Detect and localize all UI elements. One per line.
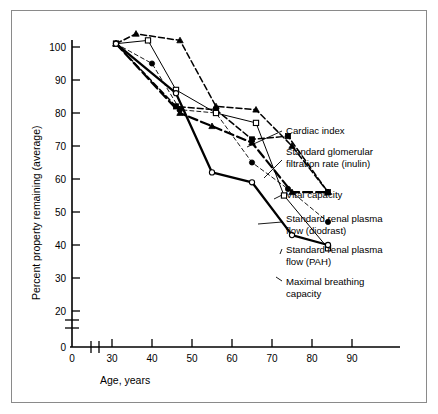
annotation-maximal-breathing-line2: capacity — [286, 288, 321, 299]
data-point-open-circle — [209, 170, 214, 175]
figure-container: 100 90 80 70 60 50 40 30 20 0 0 30 40 50… — [0, 0, 438, 414]
y-axis-title: Percent property remaining (average) — [30, 125, 42, 300]
y-tick-label-20: 20 — [55, 306, 67, 317]
y-tick-label-100: 100 — [49, 42, 66, 53]
x-tick-label-70: 70 — [266, 353, 278, 364]
x-tick-label-30: 30 — [106, 353, 118, 364]
y-tick-label-30: 30 — [55, 273, 67, 284]
data-point-open-square — [145, 38, 150, 43]
x-axis-title: Age, years — [100, 374, 150, 386]
x-axis-ticks — [112, 339, 352, 347]
annotation-cardiac-index: Cardiac index — [286, 125, 345, 136]
y-tick-label-60: 60 — [55, 174, 67, 185]
annotation-leaders — [247, 131, 282, 281]
series-1 — [113, 31, 331, 195]
annotation-srpf-diodrast-line2: flow (diodrast) — [286, 225, 346, 236]
y-tick-label-70: 70 — [55, 141, 67, 152]
annotation-sgfr-inulin-line2: filtration rate (inulin) — [286, 158, 370, 169]
series-3 — [113, 41, 331, 195]
annotation-maximal-breathing-line1: Maximal breathing — [286, 276, 364, 287]
annotation-srpf-pah-line1: Standard renal plasma — [286, 244, 383, 255]
leader-srpf-diodrast — [258, 222, 282, 224]
y-tick-label-50: 50 — [55, 207, 67, 218]
series-2 — [113, 41, 330, 195]
y-tick-label-80: 80 — [55, 108, 67, 119]
x-tick-label-80: 80 — [306, 353, 318, 364]
x-tick-label-50: 50 — [186, 353, 198, 364]
y-tick-label-0: 0 — [60, 342, 66, 353]
annotation-srpf-diodrast-line1: Standard renal plasma — [286, 213, 383, 224]
data-point-open-circle — [113, 41, 118, 46]
leader-maximal-breathing — [276, 277, 282, 281]
leader-vital-capacity — [274, 195, 282, 199]
data-point-open-square — [253, 120, 258, 125]
leader-srpf-pah — [280, 249, 282, 254]
annotation-vital-capacity: Vital capacity — [286, 189, 343, 200]
annotation-srpf-pah-line2: flow (PAH) — [286, 256, 331, 267]
data-point-open-circle — [173, 91, 178, 96]
data-point-filled-circle — [149, 61, 154, 66]
annotation-sgfr-inulin-line1: Standard glomerular — [286, 146, 374, 157]
series-line-2 — [116, 44, 328, 193]
x-tick-label-60: 60 — [226, 353, 238, 364]
data-point-open-square — [213, 110, 218, 115]
y-tick-label-40: 40 — [55, 240, 67, 251]
series-line-3 — [116, 44, 328, 193]
y-axis-ticks — [72, 47, 80, 311]
data-point-open-circle — [249, 180, 254, 185]
x-tick-label-40: 40 — [146, 353, 158, 364]
data-point-filled-circle — [249, 160, 254, 165]
chart-canvas: 100 90 80 70 60 50 40 30 20 0 0 30 40 50… — [0, 0, 438, 414]
x-tick-label-0: 0 — [69, 353, 75, 364]
x-tick-label-90: 90 — [346, 353, 358, 364]
y-tick-label-90: 90 — [55, 75, 67, 86]
data-point-filled-triangle — [133, 31, 139, 37]
